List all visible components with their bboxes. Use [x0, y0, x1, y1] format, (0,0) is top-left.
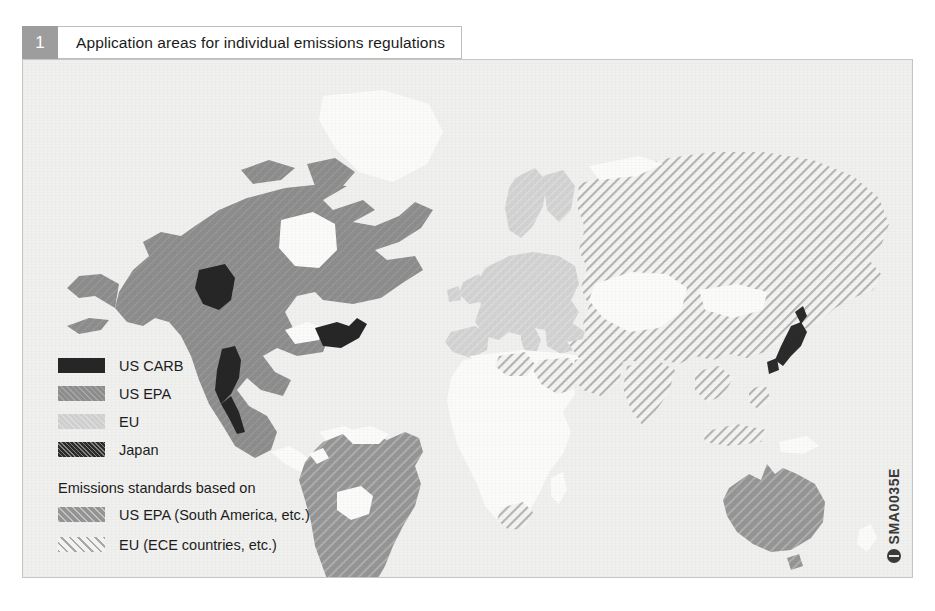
- figure-caption-bar: 1 Application areas for individual emiss…: [22, 26, 462, 59]
- legend-swatch-japan: [58, 442, 105, 457]
- figure-watermark: SMA0035E: [886, 468, 902, 563]
- legend-swatch-eu: [58, 414, 105, 429]
- legend-swatch-us-carb: [58, 358, 105, 373]
- legend-swatch-us-epa: [58, 386, 105, 401]
- figure-reference-code: SMA0035E: [886, 468, 902, 544]
- figure-caption-box: Application areas for individual emissio…: [58, 26, 462, 59]
- figure-caption-title: Application areas for individual emissio…: [76, 34, 445, 52]
- legend-label-eu: EU: [119, 414, 139, 430]
- legend-based-on-group: US EPA (South America, etc.) EU (ECE cou…: [58, 502, 310, 557]
- legend-swatch-us-epa-based: [58, 507, 105, 522]
- legend-label-us-epa-based: US EPA (South America, etc.): [119, 507, 310, 523]
- legend-label-us-epa: US EPA: [119, 386, 171, 402]
- legend-item-eu-based: EU (ECE countries, etc.): [58, 532, 310, 557]
- legend-label-us-carb: US CARB: [119, 358, 183, 374]
- legend-item-eu: EU: [58, 409, 310, 434]
- legend-item-us-epa: US EPA: [58, 381, 310, 406]
- legend-item-us-carb: US CARB: [58, 353, 310, 378]
- figure-number-badge: 1: [22, 26, 58, 59]
- bosch-logo-icon: [887, 549, 901, 563]
- legend-item-japan: Japan: [58, 437, 310, 462]
- figure-frame: US CARB US EPA EU Japan Emissions standa…: [22, 59, 913, 578]
- map-legend: US CARB US EPA EU Japan Emissions standa…: [58, 353, 310, 557]
- legend-label-eu-based: EU (ECE countries, etc.): [119, 537, 277, 553]
- legend-label-japan: Japan: [119, 442, 159, 458]
- legend-sub-heading: Emissions standards based on: [58, 480, 310, 496]
- legend-item-us-epa-based: US EPA (South America, etc.): [58, 502, 310, 527]
- legend-swatch-eu-based: [58, 537, 105, 552]
